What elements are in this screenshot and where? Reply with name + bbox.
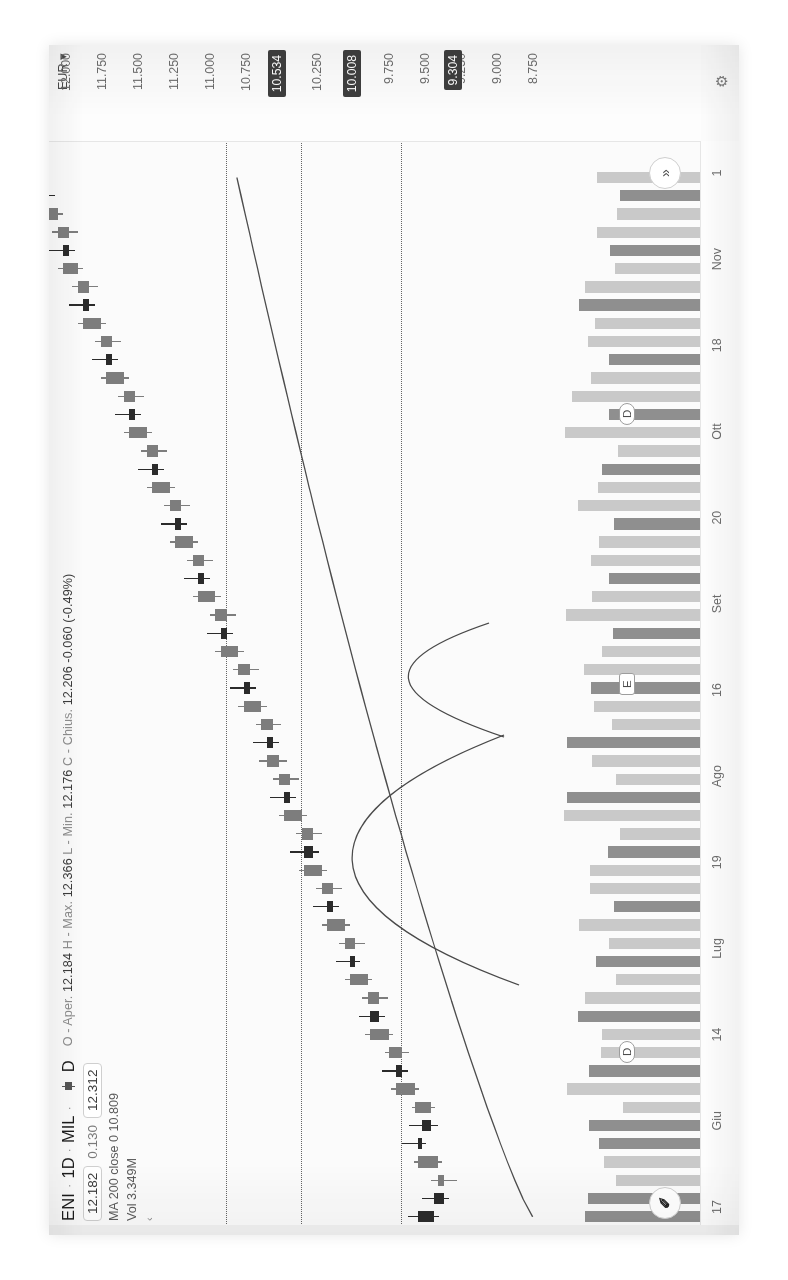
volume-bar [579,299,701,310]
volume-bar [618,445,701,456]
volume-bar [591,372,701,383]
time-tick: 14 [710,1028,724,1042]
time-tick: 19 [710,855,724,869]
volume-bar [599,1138,701,1149]
screenshot-frame: ENI · 1D · MIL · D O - Aper. 12.184 H - … [0,0,788,1280]
volume-bar [590,865,701,876]
tradingview-logo-button[interactable]: ✐ [649,1187,681,1219]
volume-bar [572,391,701,402]
volume-bar [578,1011,701,1022]
time-tick: 16 [710,683,724,697]
bid-price[interactable]: 12.182 [83,1166,102,1221]
volume-bar [590,883,701,894]
price-tick: 9.750 [382,53,396,84]
legend-separator-3: · [61,1106,76,1110]
price-tick: 10.250 [310,53,324,91]
time-tick: Giu [710,1111,724,1130]
volume-bar [591,682,701,693]
ohlc-low-label: L - Min. [61,812,75,854]
dividend-marker-2[interactable]: D [619,403,635,425]
price-tick: 12.000 [59,53,73,91]
time-tick: Ott [710,423,724,440]
legend-separator-2: · [61,1148,76,1152]
volume-bar [620,190,701,201]
volume-bar [567,737,701,748]
volume-bar [609,354,701,365]
volume-bar [585,281,701,292]
volume-bar [616,1175,701,1186]
indicator-ma200-legend[interactable]: MA 200 close 0 10.809 [107,574,121,1221]
volume-bar [584,664,701,675]
quote-row: 12.182 0.130 12.312 [83,574,102,1221]
indicator-volume-legend[interactable]: Vol 3.349M [125,574,139,1221]
volume-bar [612,719,701,730]
time-tick: 18 [710,338,724,352]
chart-legend: ENI · 1D · MIL · D O - Aper. 12.184 H - … [57,574,155,1221]
ohlc-close-value: 12.206 [61,666,75,705]
price-badge[interactable]: 10.534 [268,50,286,97]
volume-bar [604,1156,701,1167]
volume-bar [599,537,701,548]
volume-bar [565,427,701,438]
volume-bar [585,992,701,1003]
ohlc-open-label: O - Aper. [61,996,75,1047]
ohlc-change-abs: -0.060 [61,626,75,662]
time-tick: 17 [710,1200,724,1214]
price-badge[interactable]: 10.008 [343,50,361,97]
volume-bar [602,464,701,475]
volume-bar [614,518,701,529]
volume-bar [596,956,701,967]
volume-bar [615,263,701,274]
volume-bar [623,1102,701,1113]
earnings-marker[interactable]: E [619,673,635,695]
volume-bar [588,1193,701,1204]
chart-style-label[interactable]: D [59,1060,78,1072]
price-tick: 8.750 [526,53,540,84]
volume-bar [617,208,701,219]
symbol-label[interactable]: ENI [59,1193,78,1221]
volume-bar [620,828,701,839]
volume-bar [589,1120,701,1131]
price-tick: 9.000 [490,53,504,84]
volume-bar [588,336,701,347]
volume-bar [594,701,701,712]
volume-bar [566,609,701,620]
time-tick: Lug [710,938,724,959]
candlestick-icon[interactable] [62,1078,75,1093]
ohlc-low-value: 12.176 [61,770,75,809]
volume-bar [592,591,701,602]
ohlc-open-value: 12.184 [61,953,75,992]
ask-price[interactable]: 12.312 [83,1063,102,1118]
price-scale[interactable]: EUR ▾ 12.00011.75011.50011.25011.00010.7… [49,45,701,142]
time-scale[interactable]: 17Giu14Lug19Ago16Set20Ott18Nov1 [700,141,739,1235]
price-tick: 10.750 [239,53,253,91]
chevron-left-icon[interactable]: ‹ [143,574,155,1221]
volume-bar [597,227,701,238]
price-tick: 11.000 [203,53,217,90]
volume-bar [592,755,701,766]
legend-main-row: ENI · 1D · MIL · D O - Aper. 12.184 H - … [57,574,79,1221]
ohlc-high-label: H - Max. [61,901,75,949]
volume-bar [601,1047,701,1058]
price-tick: 11.500 [131,53,145,90]
volume-bar [567,1084,701,1095]
gear-icon[interactable]: ⚙ [713,75,731,88]
volume-bar [585,1211,701,1222]
volume-bar [578,500,701,511]
timeframe-label[interactable]: 1D [59,1157,78,1178]
dividend-marker-1[interactable]: D [619,1041,635,1063]
volume-bar [609,938,701,949]
time-tick: Set [710,595,724,614]
time-tick: Nov [710,248,724,270]
price-badge[interactable]: 9.304 [444,50,462,91]
volume-bar [616,974,701,985]
scroll-to-realtime-button[interactable]: » [649,157,681,189]
volume-bar [616,774,701,785]
volume-bar [614,901,701,912]
spread-value: 0.130 [85,1125,100,1159]
ohlc-close-label: C - Chius. [61,709,75,766]
legend-separator-1: · [61,1184,76,1188]
volume-bar [613,628,701,639]
volume-bar [595,318,701,329]
price-tick: 11.250 [167,53,181,90]
